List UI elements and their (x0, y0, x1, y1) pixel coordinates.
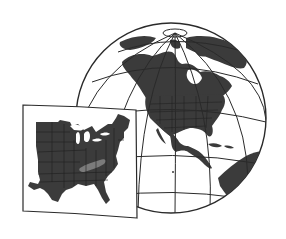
inset-map-card (23, 105, 137, 218)
map-illustration (0, 0, 286, 239)
globe-illustration (0, 0, 286, 239)
